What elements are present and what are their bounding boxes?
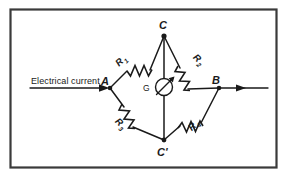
node-c-dot [161,33,166,38]
resistor-r3-label: R 3 [112,115,129,132]
node-a-label: A [100,75,109,87]
resistor-r1-symbol [127,66,152,77]
wire-r3-to-cprime [133,127,164,140]
resistor-r4-label: R 4 [185,117,202,134]
node-c-label: C [159,19,168,31]
wire-a-to-r1 [110,71,127,88]
wire-cprime-to-r4 [164,126,180,140]
branch-c-b [164,36,219,91]
resistor-r2-label: R 2 [190,51,207,68]
resistor-r1-label: R 1 [113,52,130,69]
wire-c-to-r2 [164,36,180,68]
electrical-current-label: Electrical current [31,76,100,86]
node-c-prime-label: C' [157,146,168,158]
figure-container: Electrical current A B C C' R 1 R 2 R 3 … [0,0,287,179]
galvanometer[interactable] [156,77,175,96]
wire-r4-to-b [201,88,219,123]
current-out-arrowhead [236,84,246,91]
wheatstone-bridge-diagram: Electrical current A B C C' R 1 R 2 R 3 … [0,0,287,179]
wire-r2-to-b [188,88,219,89]
wire-r1-to-c [150,36,164,70]
resistor-r2-symbol [175,66,190,91]
galvanometer-label: G [143,83,150,93]
node-b-label: B [212,74,220,86]
node-c-prime-dot [162,138,167,143]
branch-a-cprime [110,88,164,140]
current-out-arrow [220,84,268,91]
